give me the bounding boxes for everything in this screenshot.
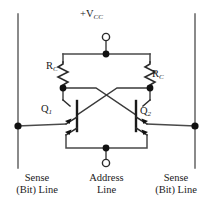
- node-sense-left: [14, 122, 21, 129]
- q2-symbol: Q: [140, 105, 148, 116]
- node-vcc: [103, 51, 110, 58]
- resistor-rc-left-label: RC: [46, 60, 58, 73]
- sense-line-right-caption: Sense (Bit) Line: [139, 172, 213, 196]
- q2-emitter-to-address-rail: [106, 135, 147, 148]
- address-line-caption: Address Line: [70, 172, 143, 196]
- q2-subscript: 2: [148, 110, 152, 118]
- address-caption-line2: Line: [70, 184, 143, 196]
- sense-right-caption-line1: Sense: [139, 172, 213, 184]
- sense-left-caption-line1: Sense: [0, 172, 74, 184]
- vcc-terminal-icon[interactable]: [102, 33, 109, 40]
- supply-voltage-label: +VCC: [80, 8, 103, 21]
- resistor-rc-left-zigzag: [58, 62, 68, 88]
- transistor-q2-label: Q2: [140, 105, 151, 118]
- rc-left-subscript: C: [53, 65, 58, 73]
- q1-emitter-to-sense-line: [18, 124, 66, 126]
- node-sense-right: [191, 122, 198, 129]
- supply-symbol: V: [86, 8, 94, 19]
- circuit-diagram: +VCC RC RC Q1 Q2 Sense (Bit) Line Addres…: [0, 0, 213, 207]
- node-collector-right: [147, 85, 154, 92]
- rc-right-subscript: C: [159, 73, 164, 81]
- q2-emitter-to-sense-line: [147, 124, 195, 126]
- q1-subscript: 1: [49, 108, 53, 116]
- sense-left-caption-line2: (Bit) Line: [0, 184, 74, 196]
- node-address: [103, 145, 110, 152]
- address-caption-line1: Address: [70, 172, 143, 184]
- resistor-rc-right-label: RC: [152, 68, 164, 81]
- rc-left-symbol: R: [46, 60, 53, 71]
- sense-line-left-caption: Sense (Bit) Line: [0, 172, 74, 196]
- q1-emitter-to-address-rail: [66, 135, 106, 148]
- transistor-q1-label: Q1: [41, 103, 52, 116]
- rc-right-symbol: R: [152, 68, 159, 79]
- q1-symbol: Q: [41, 103, 49, 114]
- supply-subscript: CC: [94, 13, 104, 21]
- q1-collector-lead: [63, 100, 70, 106]
- sense-right-caption-line2: (Bit) Line: [139, 184, 213, 196]
- node-collector-left: [60, 85, 67, 92]
- address-terminal-icon[interactable]: [102, 159, 109, 166]
- cross-couple-left-to-q2-base: [63, 88, 136, 115]
